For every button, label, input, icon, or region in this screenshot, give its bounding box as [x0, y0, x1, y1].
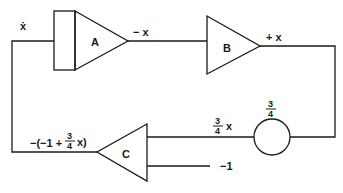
output-c-numerator: 3: [67, 131, 72, 141]
output-c-prefix: −(−1 +: [30, 137, 62, 149]
amplifier-b-triangle: [207, 16, 260, 74]
pot-coefficient-denominator: 4: [268, 109, 273, 119]
wire-b-to-pot: [260, 46, 335, 137]
block-b-label: B: [223, 42, 231, 54]
pot-output-var: x: [226, 120, 233, 132]
amplifier-a-triangle: [75, 11, 128, 70]
integrator-a-box: [54, 11, 75, 70]
coefficient-pot-circle: [254, 119, 290, 155]
pot-output-numerator: 3: [215, 116, 220, 126]
pot-coefficient-numerator: 3: [268, 99, 273, 109]
block-a-label: A: [91, 36, 99, 48]
block-diagram: A − x B + x 3 4 3 4 x −1 C ẋ −(−1 + 3 4 …: [0, 0, 343, 193]
block-c-label: C: [122, 148, 130, 160]
signal-plus-x: + x: [266, 31, 282, 43]
signal-x-dot: ẋ: [20, 20, 27, 32]
output-c-suffix: x): [77, 136, 87, 148]
pot-output-denominator: 4: [215, 126, 220, 136]
signal-minus-one: −1: [220, 160, 233, 172]
signal-minus-x: − x: [133, 26, 149, 38]
output-c-denominator: 4: [67, 141, 72, 151]
